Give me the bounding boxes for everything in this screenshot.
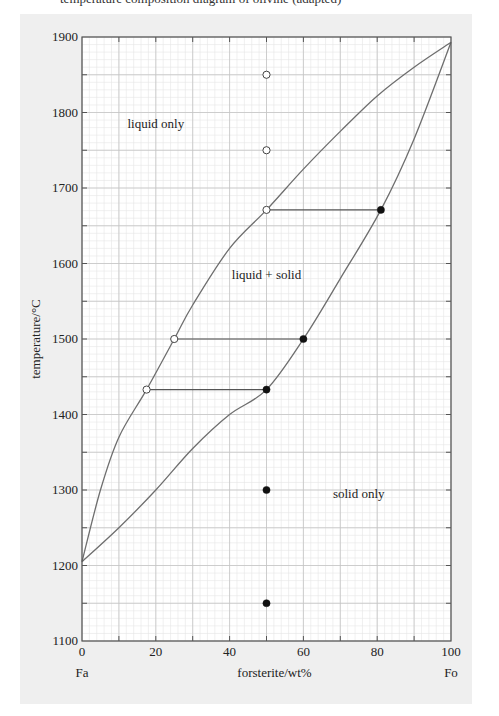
y-tick-label: 1100	[52, 633, 78, 648]
y-tick-label: 1900	[52, 29, 78, 44]
y-tick-label: 1600	[52, 256, 78, 271]
region-label: liquid + solid	[232, 267, 302, 282]
region-label: solid only	[333, 486, 385, 501]
y-axis-title: temperature/°C	[28, 299, 43, 379]
x-tick-label: 60	[297, 644, 310, 659]
open-point-liquid	[263, 71, 270, 78]
x-end-label-fa: Fa	[76, 665, 89, 680]
open-point-liquid	[143, 386, 150, 393]
y-tick-label: 1400	[52, 407, 78, 422]
y-tick-label: 1700	[52, 180, 78, 195]
y-tick-label: 1200	[52, 558, 78, 573]
x-tick-label: 0	[79, 644, 86, 659]
x-tick-label: 80	[371, 644, 384, 659]
filled-point-solid	[263, 386, 270, 393]
filled-point-solid	[263, 486, 270, 493]
x-tick-label: 20	[149, 644, 162, 659]
filled-point-solid	[263, 600, 270, 607]
open-point-liquid	[171, 335, 178, 342]
x-end-label-fo: Fo	[444, 665, 458, 680]
x-axis-title: forsterite/wt%	[237, 665, 312, 680]
x-tick-label: 100	[441, 644, 461, 659]
y-tick-label: 1300	[52, 482, 78, 497]
y-tick-label: 1800	[52, 105, 78, 120]
open-point-liquid	[263, 206, 270, 213]
filled-point-solid	[377, 206, 384, 213]
x-tick-label: 40	[223, 644, 236, 659]
phase-diagram-chart: 1100120013001400150016001700180019000204…	[0, 0, 499, 716]
region-label: liquid only	[127, 116, 184, 131]
filled-point-solid	[300, 335, 307, 342]
y-tick-label: 1500	[52, 331, 78, 346]
open-point-liquid	[263, 147, 270, 154]
